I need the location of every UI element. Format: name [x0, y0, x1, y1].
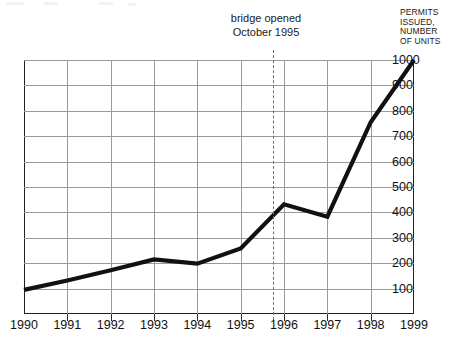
x-axis-tick-mark: [241, 314, 242, 321]
y-axis-title: PERMITS ISSUED, NUMBER OF UNITS: [400, 8, 440, 46]
y-axis-tick-label: 100: [392, 282, 413, 296]
scan-artifact: [128, 3, 136, 6]
y-axis-tick-label: 800: [392, 104, 413, 118]
x-axis-tick-mark: [197, 314, 198, 321]
x-axis-tick-label: 1999: [400, 318, 428, 332]
scan-artifact: [6, 2, 24, 5]
y-axis-tick-label: 1000: [392, 53, 420, 67]
y-axis-tick-label: 700: [392, 129, 413, 143]
scan-artifact: [44, 2, 58, 5]
y-axis-tick-label: 200: [392, 256, 413, 270]
x-axis-tick-label: 1990: [10, 318, 38, 332]
scan-artifact: [99, 2, 113, 5]
x-axis-tick-mark: [284, 314, 285, 321]
x-axis-tick-mark: [327, 314, 328, 321]
y-axis-tick-label: 400: [392, 205, 413, 219]
y-axis-tick-label: 300: [392, 231, 413, 245]
annotation-vertical-dashed-line: [273, 50, 274, 320]
x-axis-tick-mark: [154, 314, 155, 321]
x-axis-tick-mark: [371, 314, 372, 321]
x-axis-tick-mark: [67, 314, 68, 321]
data-line-series: [24, 60, 414, 314]
chart-annotation-bridge-opened: bridge opened October 1995: [176, 12, 356, 39]
plot-area: [24, 60, 414, 314]
x-axis-tick-mark: [111, 314, 112, 321]
y-axis-tick-label: 600: [392, 155, 413, 169]
y-axis-tick-label: 500: [392, 180, 413, 194]
y-axis-tick-label: 900: [392, 78, 413, 92]
chart-container: bridge opened October 1995 PERMITS ISSUE…: [0, 0, 462, 355]
